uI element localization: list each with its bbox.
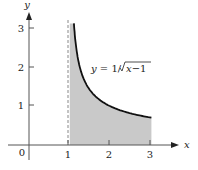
y-tick-label: 2 [18, 62, 24, 73]
x-axis-arrow-icon [171, 142, 179, 148]
origin-label: 0 [19, 147, 25, 158]
y-tick-label: 3 [18, 23, 24, 34]
x-axis-label: x [184, 139, 190, 150]
svg-text:x−1: x−1 [126, 63, 146, 74]
curve-label: y = 1/ x−1 [90, 62, 151, 74]
x-tick-label: 1 [65, 149, 71, 160]
shaded-area [70, 23, 152, 145]
chart: 1 2 3 1 2 3 0 x y y = 1/ x−1 [0, 0, 198, 170]
svg-text:y = 1/: y = 1/ [90, 63, 122, 74]
x-tick-label: 2 [106, 149, 112, 160]
y-axis-arrow-icon [26, 12, 32, 20]
x-tick-label: 3 [147, 149, 153, 160]
y-axis-label: y [23, 0, 30, 10]
y-tick-label: 1 [18, 100, 24, 111]
